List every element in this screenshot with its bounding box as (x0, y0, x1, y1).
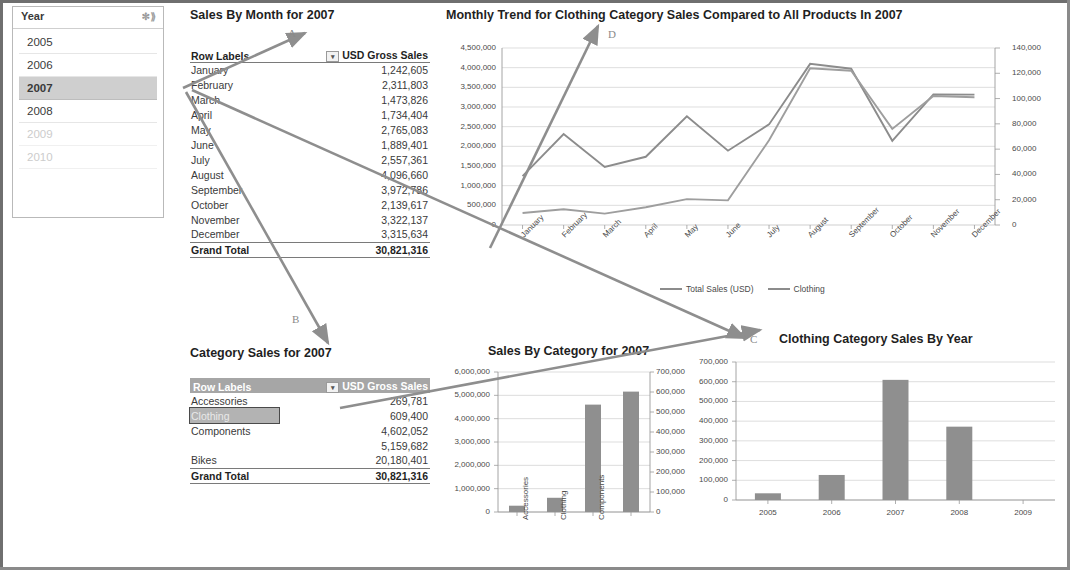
table-row[interactable]: June1,889,401 (190, 137, 430, 152)
table-row[interactable]: Accessories269,781 (190, 393, 430, 408)
slicer-header: Year ⟪✼ (13, 7, 163, 29)
row-value: 2,557,361 (277, 152, 430, 167)
table-row[interactable]: September3,972,786 (190, 182, 430, 197)
table-row[interactable]: August4,096,660 (190, 167, 430, 182)
row-label: March (190, 92, 277, 107)
header-usd-gross-sales[interactable]: ▾USD Gross Sales (279, 378, 430, 393)
filter-dropdown-icon[interactable]: ▾ (326, 382, 339, 393)
header-row-labels[interactable]: Row Labels (190, 378, 279, 393)
bar[interactable] (946, 427, 972, 500)
category-pivot-title: Category Sales for 2007 (190, 346, 332, 360)
category-tick-label: 2008 (945, 508, 973, 517)
row-label: Accessories (190, 393, 279, 408)
axis-tick-label: 20,000 (1012, 195, 1062, 204)
row-label: Components (190, 423, 279, 438)
slicer-item-2010[interactable]: 2010 (19, 146, 157, 169)
axis-tick-label: 5,000,000 (440, 390, 490, 399)
table-row[interactable]: Bikes20,180,401 (190, 453, 430, 468)
category-tick-label: 2005 (754, 508, 782, 517)
row-label: Bikes (190, 453, 279, 468)
sales-by-category-chart[interactable]: 01,000,0002,000,0003,000,0004,000,0005,0… (440, 366, 705, 566)
slicer-title: Year (21, 10, 44, 22)
row-label (190, 438, 279, 453)
header-usd-gross-sales[interactable]: ▾USD Gross Sales (277, 47, 430, 62)
axis-tick-label: 140,000 (1012, 43, 1062, 52)
legend-swatch-icon (768, 288, 790, 290)
category-tick-label: 2009 (1009, 508, 1037, 517)
row-value: 4,096,660 (277, 167, 430, 182)
axis-tick-label: 1,000,000 (440, 181, 496, 190)
grand-total-label: Grand Total (190, 468, 279, 483)
table-row[interactable]: November3,322,137 (190, 212, 430, 227)
axis-tick-label: 100,000 (1012, 94, 1062, 103)
bar[interactable] (819, 475, 845, 500)
category-tick-label: Clothing (559, 491, 568, 520)
table-row[interactable]: December3,315,634 (190, 227, 430, 242)
row-value: 2,765,083 (277, 122, 430, 137)
header-usd-gross-sales-label: USD Gross Sales (342, 380, 428, 392)
category-tick-label: 2007 (882, 508, 910, 517)
row-value: 3,972,786 (277, 182, 430, 197)
table-row[interactable]: March1,473,826 (190, 92, 430, 107)
axis-tick-label: 120,000 (1012, 68, 1062, 77)
row-value: 269,781 (279, 393, 430, 408)
table-row[interactable]: 5,159,682 (190, 438, 430, 453)
header-row-labels[interactable]: Row Labels (190, 47, 277, 62)
legend-label: Total Sales (USD) (686, 284, 754, 294)
clothing-by-year-plot (680, 352, 1065, 537)
axis-tick-label: 0 (680, 495, 728, 504)
slicer-item-2006[interactable]: 2006 (19, 54, 157, 77)
table-row[interactable]: April1,734,404 (190, 107, 430, 122)
grand-total-row: Grand Total 30,821,316 (190, 242, 430, 257)
slicer-item-2005[interactable]: 2005 (19, 31, 157, 54)
month-pivot-table[interactable]: Row Labels ▾USD Gross Sales January1,242… (190, 47, 430, 258)
row-value: 1,242,605 (277, 62, 430, 77)
grand-total-value: 30,821,316 (279, 468, 430, 483)
table-row[interactable]: July2,557,361 (190, 152, 430, 167)
bar[interactable] (755, 493, 781, 500)
category-pivot-table[interactable]: Row Labels ▾USD Gross Sales Accessories2… (190, 378, 430, 484)
axis-tick-label: 500,000 (680, 396, 728, 405)
table-header-row: Row Labels ▾USD Gross Sales (190, 378, 430, 393)
year-slicer[interactable]: Year ⟪✼ 2005 2006 2007 2008 2009 2010 (12, 6, 164, 218)
row-value: 4,602,052 (279, 423, 430, 438)
grand-total-value: 30,821,316 (277, 242, 430, 257)
table-row[interactable]: February2,311,803 (190, 77, 430, 92)
bar[interactable] (883, 380, 909, 500)
page-border-top (0, 0, 1070, 3)
row-value: 2,139,617 (277, 197, 430, 212)
monthly-trend-chart[interactable]: 0500,0001,000,0001,500,0002,000,0002,500… (440, 40, 1065, 300)
clear-filter-icon[interactable]: ⟪✼ (142, 11, 156, 22)
axis-tick-label: 200,000 (680, 456, 728, 465)
slicer-item-2008[interactable]: 2008 (19, 100, 157, 123)
month-pivot-title: Sales By Month for 2007 (190, 8, 335, 22)
page-border-left (0, 0, 3, 570)
axis-tick-label: 3,000,000 (440, 102, 496, 111)
row-label: December (190, 227, 277, 242)
table-row[interactable]: May2,765,083 (190, 122, 430, 137)
filter-dropdown-icon[interactable]: ▾ (326, 51, 339, 62)
axis-tick-label: 4,000,000 (440, 63, 496, 72)
bar[interactable] (623, 392, 639, 512)
grand-total-label: Grand Total (190, 242, 277, 257)
axis-tick-label: 40,000 (1012, 169, 1062, 178)
legend-label: Clothing (794, 284, 825, 294)
clothing-by-year-chart[interactable]: 0100,000200,000300,000400,000500,000600,… (680, 352, 1065, 537)
table-row[interactable]: Components4,602,052 (190, 423, 430, 438)
legend-item-clothing[interactable]: Clothing (768, 284, 825, 294)
legend-item-total-sales[interactable]: Total Sales (USD) (660, 284, 754, 294)
legend-swatch-icon (660, 288, 682, 290)
header-usd-gross-sales-label: USD Gross Sales (342, 49, 428, 61)
slicer-item-2009[interactable]: 2009 (19, 123, 157, 146)
axis-tick-label: 4,000,000 (440, 414, 490, 423)
row-label: February (190, 77, 277, 92)
table-row-selected[interactable]: Clothing609,400 (190, 408, 430, 423)
table-row[interactable]: January1,242,605 (190, 62, 430, 77)
dashboard-page: Year ⟪✼ 2005 2006 2007 2008 2009 2010 Sa… (0, 0, 1070, 570)
sales-by-category-title: Sales By Category for 2007 (488, 344, 649, 358)
slicer-item-2007[interactable]: 2007 (19, 77, 157, 100)
axis-tick-label: 1,000,000 (440, 484, 490, 493)
table-row[interactable]: October2,139,617 (190, 197, 430, 212)
axis-tick-label: 1,500,000 (440, 161, 496, 170)
row-value: 609,400 (279, 408, 430, 423)
